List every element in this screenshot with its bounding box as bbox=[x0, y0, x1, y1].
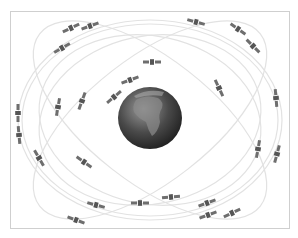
satellite-icon bbox=[143, 59, 161, 65]
satellite-icon bbox=[53, 41, 71, 55]
satellite-icon bbox=[54, 98, 63, 117]
constellation-diagram bbox=[0, 0, 298, 238]
earth-globe bbox=[118, 87, 182, 149]
satellite-icon bbox=[272, 89, 279, 107]
satellite-icon bbox=[15, 104, 21, 122]
satellite-icon bbox=[105, 89, 122, 105]
satellite-icon bbox=[62, 22, 81, 35]
satellite-icon bbox=[121, 74, 140, 85]
satellite-icon bbox=[67, 214, 86, 225]
satellite-icon bbox=[32, 149, 46, 167]
satellite-icon bbox=[75, 155, 93, 170]
satellite-icon bbox=[223, 207, 242, 220]
